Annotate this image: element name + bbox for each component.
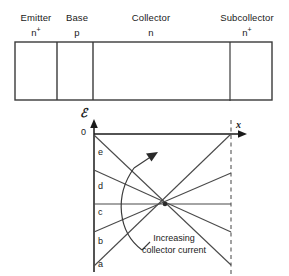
y-axis-symbol: ℰ (80, 106, 87, 121)
curve-label-d: d (98, 181, 103, 191)
annotation-line-1: Increasing (153, 233, 195, 243)
curve-label-e: e (98, 147, 103, 157)
figure-container: Emitter n+ Base p Collector n Subcollect… (0, 0, 289, 276)
curve-label-b: b (98, 236, 103, 246)
y-axis-arrowhead (90, 119, 98, 128)
device-cross-section (15, 42, 272, 101)
device-outline (15, 42, 272, 100)
increasing-current-annotation: Increasing collector current (119, 233, 229, 256)
curve-label-a: a (98, 259, 103, 269)
origin-label: 0 (81, 127, 86, 137)
curve-label-c: c (98, 207, 103, 217)
x-axis-arrowhead (238, 130, 247, 138)
x-axis-label: x (236, 119, 241, 130)
annotation-line-2: collector current (142, 245, 206, 255)
increasing-current-arrowhead (146, 152, 158, 162)
curve-crossing-point (163, 202, 168, 207)
